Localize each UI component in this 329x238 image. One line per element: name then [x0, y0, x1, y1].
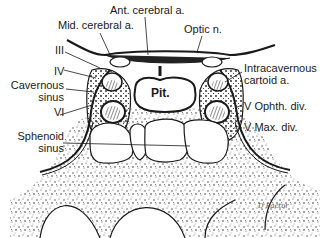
sphenoid-sinus-cavity [90, 123, 133, 163]
anatomy-diagram: Ant. cerebral a. Mid. cerebral a. Optic … [0, 0, 329, 238]
label-cn-iv: IV [54, 65, 64, 77]
label-pituitary: Pit. [151, 87, 170, 99]
label-ant-cerebral-artery: Ant. cerebral a. [110, 4, 185, 16]
label-v-ophthalmic-division: V Ophth. div. [244, 100, 307, 112]
label-cavernous-sinus-line2: sinus [2, 91, 64, 103]
label-cavernous-sinus-line1: Cavernous [2, 79, 64, 91]
label-sphenoid-sinus-line2: sinus [2, 142, 64, 154]
artist-signature: D Factor [258, 200, 289, 212]
label-intracavernous-carotid-line1: Intracavernous [244, 62, 317, 74]
label-cn-iii: III [55, 44, 64, 56]
label-mid-cerebral-artery: Mid. cerebral a. [58, 19, 134, 31]
label-cn-vi: VI [54, 106, 64, 118]
label-intracavernous-carotid-line2: cartoid a. [244, 74, 289, 86]
label-sphenoid-sinus-line1: Sphenoid [2, 130, 64, 142]
label-v-maxillary-division: V Max. div. [244, 121, 298, 133]
label-optic-nerve: Optic n. [184, 23, 222, 35]
